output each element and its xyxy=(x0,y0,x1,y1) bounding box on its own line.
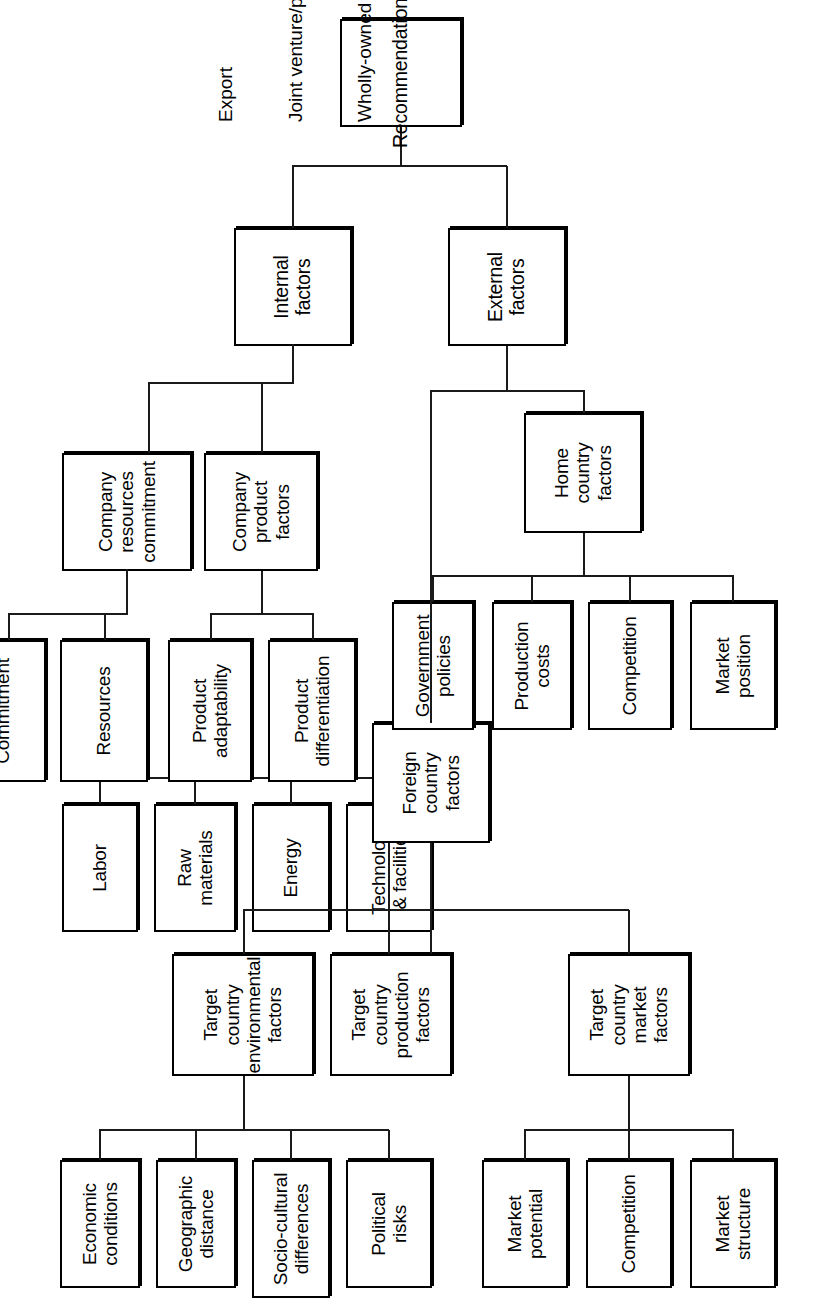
node-label: Political risks xyxy=(368,1192,411,1256)
node-internal-factors[interactable]: Internal factors xyxy=(234,228,352,346)
node-political-risks[interactable]: Political risks xyxy=(346,1160,432,1288)
edge-external-out xyxy=(506,166,508,228)
node-target-country-market-factors[interactable]: Target country market factors xyxy=(568,954,690,1076)
node-label: Raw materials xyxy=(174,830,217,905)
node-label: Commitment xyxy=(0,658,14,764)
node-label: Socio-cultural differences xyxy=(270,1173,313,1285)
node-resources[interactable]: Resources xyxy=(60,640,148,782)
edge-internal-out xyxy=(292,166,294,228)
edge-stub xyxy=(629,576,631,602)
node-competition-market[interactable]: Competition xyxy=(586,1160,672,1288)
node-label: Competition xyxy=(618,1174,639,1273)
edge-product-to-bus xyxy=(261,383,263,453)
edge-parent-link-internal xyxy=(292,344,294,384)
node-label: Geographic distance xyxy=(175,1176,218,1272)
edge-bus xyxy=(8,613,104,615)
outcome-joint-venture: Joint venture/partnership contractual ag… xyxy=(284,2,307,122)
edge-stub xyxy=(432,576,434,602)
edge-stub xyxy=(732,1130,734,1160)
node-commitment[interactable]: Commitment xyxy=(0,640,46,782)
edge-stub xyxy=(732,576,734,602)
edge-bus-internal xyxy=(148,382,294,384)
node-label: Labor xyxy=(89,844,110,892)
edge-stub xyxy=(524,1130,526,1160)
node-company-resources-commitment[interactable]: Company resources commitment xyxy=(62,453,192,571)
edge-stub xyxy=(104,614,106,640)
edge-child-out xyxy=(430,910,432,954)
node-label: Home country factors xyxy=(551,443,615,504)
edge-bus xyxy=(243,909,629,911)
outcome-wholly-owned: Wholly-owned subsidiary including merger… xyxy=(353,2,376,122)
node-government-policies[interactable]: Government policies xyxy=(392,602,474,730)
edge-parent-link xyxy=(430,841,432,911)
node-energy[interactable]: Energy xyxy=(252,804,330,932)
node-label: Company product factors xyxy=(229,472,293,552)
node-label: Internal factors xyxy=(271,233,315,341)
node-label: External factors xyxy=(485,233,529,341)
edge-bus-extend xyxy=(104,613,128,615)
node-label: Target country environmental factors xyxy=(200,957,285,1074)
node-production-costs[interactable]: Production costs xyxy=(492,602,572,730)
node-label: Economic conditions xyxy=(79,1182,122,1266)
node-market-structure[interactable]: Market structure xyxy=(690,1160,776,1288)
edge-resources-to-bus xyxy=(148,383,150,453)
node-product-adaptability[interactable]: Product adaptability xyxy=(168,640,252,782)
edge-foreign-to-bus xyxy=(430,390,432,723)
node-label: Government policies xyxy=(412,615,455,718)
edge-home-to-bus xyxy=(583,390,585,413)
node-market-potential[interactable]: Market potential xyxy=(482,1160,568,1288)
node-socio-cultural-differences[interactable]: Socio-cultural differences xyxy=(252,1160,330,1298)
outcome-export: Export xyxy=(214,2,237,122)
node-label: Production costs xyxy=(511,622,554,711)
node-geographic-distance[interactable]: Geographic distance xyxy=(156,1160,236,1288)
node-competition-home[interactable]: Competition xyxy=(588,602,672,730)
edge-stub xyxy=(388,1130,390,1160)
node-company-product-factors[interactable]: Company product factors xyxy=(204,453,318,571)
edge-stub xyxy=(99,1130,101,1160)
edge-stub xyxy=(290,1130,292,1160)
rotation-wrapper: Market structure Competition Market pote… xyxy=(0,0,836,1312)
edge-parent-link xyxy=(506,344,508,392)
node-home-country-factors[interactable]: Home country factors xyxy=(524,413,642,533)
node-target-country-production-factors[interactable]: Target country production factors xyxy=(330,954,452,1076)
node-economic-conditions[interactable]: Economic conditions xyxy=(60,1160,140,1288)
edge-stub xyxy=(210,614,212,640)
edge-stub xyxy=(628,1130,630,1160)
edge-parent-link xyxy=(583,531,585,577)
node-label: Product differentiation xyxy=(291,656,334,767)
node-label: Foreign country factors xyxy=(399,751,463,814)
edge-parent-link xyxy=(261,569,263,615)
node-foreign-country-factors[interactable]: Foreign country factors xyxy=(372,723,490,843)
edge-stub xyxy=(312,614,314,640)
edge-parent-link xyxy=(628,1074,630,1131)
node-label: Resources xyxy=(93,666,114,755)
node-target-country-environmental-factors[interactable]: Target country environmental factors xyxy=(172,954,314,1076)
node-raw-materials[interactable]: Raw materials xyxy=(154,804,236,932)
node-label: Market structure xyxy=(712,1188,755,1260)
node-label: Product adaptability xyxy=(189,664,232,758)
node-product-differentiation[interactable]: Product differentiation xyxy=(268,640,356,782)
node-external-factors[interactable]: External factors xyxy=(448,228,566,346)
node-label: Market position xyxy=(712,634,755,698)
node-labor[interactable]: Labor xyxy=(62,804,138,932)
node-label: Target country production factors xyxy=(348,972,433,1059)
edge-child-out xyxy=(628,910,630,954)
node-label: Market potential xyxy=(504,1189,547,1259)
edge-child-out xyxy=(243,910,245,954)
edge-stub xyxy=(531,576,533,602)
outcome-options: Export Joint venture/partnership contrac… xyxy=(168,2,423,122)
edge-parent-link xyxy=(126,569,128,615)
edge-stub xyxy=(195,1130,197,1160)
diagram-canvas: Market structure Competition Market pote… xyxy=(0,0,836,1312)
node-label: Company resources commitment xyxy=(95,461,159,562)
edge-stub xyxy=(8,614,10,640)
node-label: Energy xyxy=(280,839,301,898)
org-tree-diagram: Market structure Competition Market pote… xyxy=(0,0,836,1312)
node-market-position[interactable]: Market position xyxy=(690,602,776,730)
node-label: Target country market factors xyxy=(586,985,671,1046)
node-label: Competition xyxy=(619,616,640,715)
edge-parent-link xyxy=(243,1074,245,1131)
